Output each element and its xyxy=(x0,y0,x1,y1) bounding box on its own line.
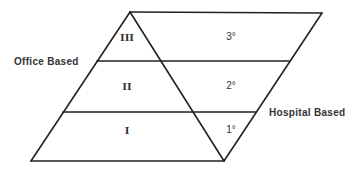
level-III-label: III xyxy=(120,32,134,43)
care-levels-diagram: III II I 3° 2° 1° Office Based Hospital … xyxy=(0,0,357,175)
hospital-based-label: Hospital Based xyxy=(269,107,345,118)
level-I-label: I xyxy=(125,125,130,136)
level-II-label: II xyxy=(122,81,132,92)
primary-care-label: 1° xyxy=(226,124,236,135)
office-based-label: Office Based xyxy=(14,56,79,67)
tertiary-care-label: 3° xyxy=(226,31,236,42)
parallelogram-top-edge xyxy=(130,12,322,13)
triangle-left-edge xyxy=(31,12,130,161)
triangle-right-edge xyxy=(130,12,224,161)
parallelogram-right-edge xyxy=(224,13,322,161)
secondary-care-label: 2° xyxy=(226,80,236,91)
